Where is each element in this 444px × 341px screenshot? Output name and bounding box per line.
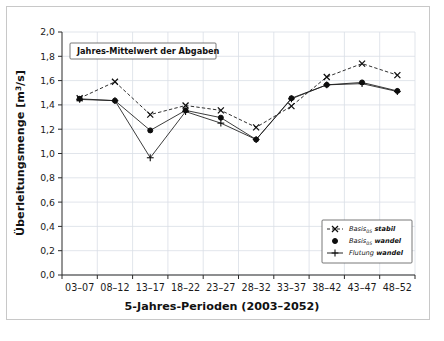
x-tick-label: 43–47 — [347, 282, 376, 293]
data-point-marker — [147, 154, 154, 161]
x-axis-ticks: 03–0708–1213–1718–2223–2728–3233–3738–42… — [62, 275, 415, 293]
y-tick-label: 1,8 — [40, 51, 55, 62]
y-axis-ticks: 0,00,20,40,60,81,01,21,41,61,82,0 — [40, 26, 62, 280]
x-tick-label: 38–42 — [312, 282, 341, 293]
data-point-marker — [218, 115, 223, 120]
x-tick-label: 18–22 — [171, 282, 200, 293]
data-point-marker — [217, 120, 224, 127]
data-point-marker — [323, 81, 330, 88]
data-point-marker — [324, 74, 330, 80]
y-tick-label: 1,6 — [40, 75, 55, 86]
data-point-marker — [394, 72, 400, 78]
x-tick-label: 28–32 — [242, 282, 271, 293]
data-point-marker — [148, 128, 153, 133]
annotation-box: Jahres-Mittelwert der Abgaben — [70, 43, 220, 59]
data-point-marker — [112, 79, 118, 85]
data-point-marker — [288, 103, 294, 109]
data-point-marker — [147, 112, 153, 118]
y-tick-label: 0,8 — [40, 172, 55, 183]
y-tick-label: 1,4 — [40, 99, 55, 110]
y-tick-label: 1,0 — [40, 148, 55, 159]
x-tick-label: 13–17 — [136, 282, 165, 293]
y-axis-title: Überleitungsmenge [m3/s] — [13, 70, 27, 236]
legend: Basis05 stabilBasis05 wandelFlutung wand… — [322, 220, 412, 263]
y-tick-label: 0,2 — [40, 245, 55, 256]
y-tick-label: 2,0 — [40, 26, 55, 37]
chart-figure: 0,00,20,40,60,81,01,21,41,61,82,0 03–070… — [0, 0, 444, 341]
chart-svg: 0,00,20,40,60,81,01,21,41,61,82,0 03–070… — [0, 0, 444, 341]
data-point-marker — [359, 61, 365, 67]
x-tick-label: 08–12 — [100, 282, 129, 293]
y-tick-label: 0,4 — [40, 221, 55, 232]
legend-label-0: Basis05 stabil — [349, 225, 396, 234]
x-axis-title: 5-Jahres-Perioden (2003–2052) — [125, 300, 320, 313]
legend-label-2: Flutung wandel — [349, 249, 404, 257]
x-tick-label: 33–37 — [277, 282, 306, 293]
legend-label-1: Basis05 wandel — [349, 237, 402, 246]
annotation-label: Jahres-Mittelwert der Abgaben — [76, 46, 220, 56]
y-tick-label: 1,2 — [40, 124, 55, 135]
y-tick-label: 0,0 — [40, 269, 55, 280]
x-tick-label: 23–27 — [206, 282, 235, 293]
x-tick-label: 03–07 — [65, 282, 94, 293]
x-tick-label: 48–52 — [383, 282, 412, 293]
data-point-marker — [333, 239, 338, 244]
y-tick-label: 0,6 — [40, 197, 55, 208]
